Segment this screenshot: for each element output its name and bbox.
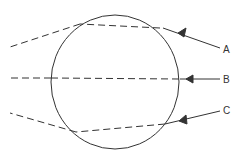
ray-c-label: C: [223, 105, 230, 116]
ray-b: [8, 75, 220, 83]
ray-c-inside: [76, 124, 165, 132]
ray-a-arrow-icon: [178, 28, 186, 37]
sphere-refraction-diagram: A B C: [0, 0, 243, 159]
ray-a: [10, 24, 220, 48]
ray-c-incident: [165, 111, 220, 124]
ray-a-label: A: [223, 44, 230, 55]
ray-c-exit: [10, 113, 76, 132]
ray-b-arrow-icon: [186, 75, 193, 83]
ray-b-inside: [51, 78, 179, 79]
ray-c: [10, 111, 220, 132]
ray-c-arrow-icon: [179, 115, 187, 124]
ray-b-label: B: [223, 74, 230, 85]
ray-a-incident: [163, 28, 220, 48]
